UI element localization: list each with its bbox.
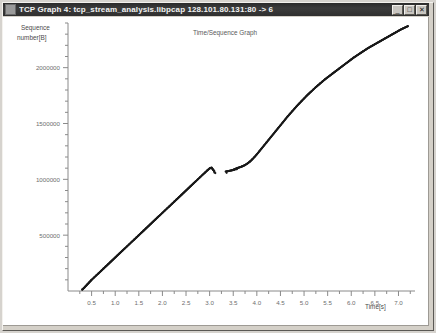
data-point bbox=[407, 25, 409, 27]
title-bar[interactable]: TCP Graph 4: tcp_stream_analysis.libpcap… bbox=[3, 3, 429, 16]
x-tick-label: 0.5 bbox=[87, 299, 96, 306]
x-axis-title: Time[s] bbox=[365, 303, 386, 311]
window-controls: _ □ ✕ bbox=[392, 5, 427, 15]
y-tick-label: 2000000 bbox=[36, 64, 61, 71]
x-tick-label: 7.0 bbox=[394, 299, 403, 306]
x-tick-label: 5.0 bbox=[300, 299, 309, 306]
maximize-icon: □ bbox=[405, 6, 414, 14]
window-title: TCP Graph 4: tcp_stream_analysis.libpcap… bbox=[19, 5, 392, 14]
minimize-button[interactable]: _ bbox=[392, 5, 403, 15]
maximize-button[interactable]: □ bbox=[404, 5, 415, 15]
x-axis-tick-labels: 0.51.01.52.02.53.03.54.04.55.05.56.06.57… bbox=[87, 299, 403, 306]
plot-client-area[interactable]: Sequence number[B] Time/Sequence Graph 5… bbox=[3, 17, 429, 326]
x-tick-label: 3.5 bbox=[229, 299, 238, 306]
y-axis-title-line1: Sequence bbox=[21, 24, 50, 32]
data-point bbox=[214, 172, 216, 174]
data-point-cloud[interactable] bbox=[81, 25, 409, 291]
y-axis-title-line2: number[B] bbox=[17, 34, 47, 42]
minimize-icon: _ bbox=[393, 6, 402, 14]
x-tick-label: 2.0 bbox=[158, 299, 167, 306]
x-tick-label: 1.0 bbox=[111, 299, 120, 306]
y-axis-ticks bbox=[63, 23, 68, 280]
x-tick-label: 1.5 bbox=[135, 299, 144, 306]
x-tick-label: 4.5 bbox=[276, 299, 285, 306]
x-tick-label: 6.0 bbox=[347, 299, 356, 306]
x-axis-ticks bbox=[80, 291, 410, 296]
chart-title: Time/Sequence Graph bbox=[193, 29, 258, 37]
tcp-graph-window: TCP Graph 4: tcp_stream_analysis.libpcap… bbox=[0, 0, 436, 333]
window-menu-icon[interactable] bbox=[5, 4, 16, 15]
y-tick-label: 1000000 bbox=[36, 176, 61, 183]
y-tick-label: 1500000 bbox=[36, 120, 61, 127]
y-axis-tick-labels: 500000100000015000002000000 bbox=[36, 64, 61, 239]
data-point bbox=[236, 168, 238, 170]
x-tick-label: 4.0 bbox=[253, 299, 262, 306]
close-icon: ✕ bbox=[417, 6, 426, 14]
x-tick-label: 2.5 bbox=[182, 299, 191, 306]
data-point bbox=[226, 172, 228, 174]
y-tick-label: 500000 bbox=[39, 232, 60, 239]
close-button[interactable]: ✕ bbox=[416, 5, 427, 15]
x-tick-label: 5.5 bbox=[323, 299, 332, 306]
time-sequence-graph[interactable]: Sequence number[B] Time/Sequence Graph 5… bbox=[3, 17, 429, 326]
x-tick-label: 3.0 bbox=[205, 299, 214, 306]
